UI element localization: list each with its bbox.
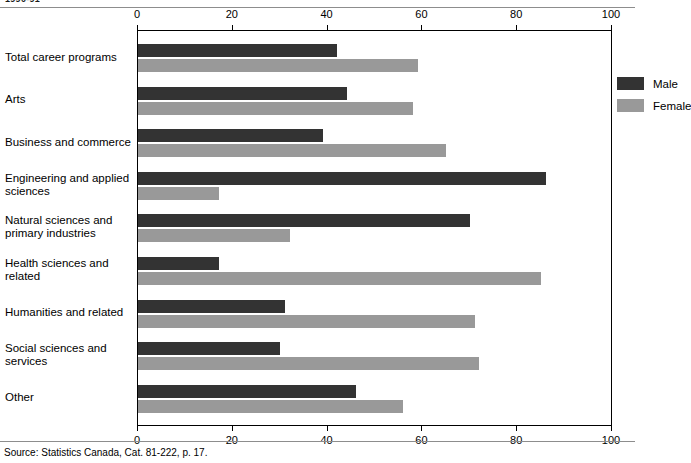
category-label-line: related: [5, 270, 133, 283]
category-label: Social sciences andservices: [5, 342, 133, 368]
tick-mark-bottom: [137, 426, 138, 431]
category-label: Arts: [5, 93, 133, 106]
bar-male: [138, 385, 356, 398]
legend-swatch-female-icon: [617, 99, 644, 112]
bar-male: [138, 129, 323, 142]
category-label-line: Business and commerce: [5, 136, 133, 149]
tick-label-top: 80: [496, 8, 536, 20]
bar-male: [138, 44, 337, 57]
legend-label-male: Male: [653, 78, 678, 90]
plot-area: Male Female: [137, 30, 612, 426]
tick-mark-bottom: [232, 426, 233, 431]
category-label-line: Engineering and applied: [5, 172, 133, 185]
category-label-line: Health sciences and: [5, 257, 133, 270]
tick-label-bottom: 80: [496, 434, 536, 446]
bar-male: [138, 214, 470, 227]
bar-female: [138, 187, 219, 200]
legend-item-male: Male: [617, 77, 691, 90]
tick-label-top: 60: [401, 8, 441, 20]
bar-female: [138, 357, 479, 370]
bar-male: [138, 300, 285, 313]
category-label-line: services: [5, 355, 133, 368]
legend-label-female: Female: [653, 100, 691, 112]
tick-label-top: 100: [591, 8, 631, 20]
source-note: Source: Statistics Canada, Cat. 81-222, …: [4, 447, 207, 458]
category-label: Humanities and related: [5, 306, 133, 319]
tick-mark-bottom: [421, 426, 422, 431]
category-label-line: Total career programs: [5, 51, 133, 64]
legend-swatch-male-icon: [617, 77, 644, 90]
bar-female: [138, 272, 541, 285]
bar-male: [138, 342, 280, 355]
tick-mark-top: [232, 25, 233, 30]
tick-label-top: 20: [212, 8, 252, 20]
category-label: Health sciences andrelated: [5, 257, 133, 283]
bar-female: [138, 229, 290, 242]
tick-label-top: 40: [307, 8, 347, 20]
axis-right: [611, 30, 612, 426]
tick-mark-top: [327, 25, 328, 30]
category-label-line: Natural sciences and: [5, 214, 133, 227]
tick-label-bottom: 100: [591, 434, 631, 446]
tick-mark-top: [421, 25, 422, 30]
category-label: Total career programs: [5, 51, 133, 64]
category-label-line: Humanities and related: [5, 306, 133, 319]
legend-item-female: Female: [617, 99, 691, 112]
category-label-line: Other: [5, 391, 133, 404]
category-label-line: Social sciences and: [5, 342, 133, 355]
bar-female: [138, 400, 403, 413]
tick-label-bottom: 40: [307, 434, 347, 446]
category-label-line: Arts: [5, 93, 133, 106]
clipped-title: 1990-91: [5, 0, 40, 3]
category-label: Natural sciences andprimary industries: [5, 214, 133, 240]
tick-mark-bottom: [327, 426, 328, 431]
tick-mark-bottom: [611, 426, 612, 431]
bar-male: [138, 257, 219, 270]
source-divider: [0, 441, 635, 442]
tick-mark-top: [611, 25, 612, 30]
bar-male: [138, 172, 546, 185]
bar-female: [138, 59, 418, 72]
bar-female: [138, 102, 413, 115]
category-label: Engineering and appliedsciences: [5, 172, 133, 198]
bar-male: [138, 87, 347, 100]
legend: Male Female: [617, 77, 691, 121]
category-label: Business and commerce: [5, 136, 133, 149]
tick-mark-top: [516, 25, 517, 30]
tick-label-bottom: 0: [117, 434, 157, 446]
axis-top: [137, 30, 612, 31]
bar-female: [138, 144, 446, 157]
category-label-line: sciences: [5, 185, 133, 198]
tick-mark-bottom: [516, 426, 517, 431]
category-label: Other: [5, 391, 133, 404]
tick-label-top: 0: [117, 8, 157, 20]
category-label-line: primary industries: [5, 227, 133, 240]
tick-label-bottom: 60: [401, 434, 441, 446]
tick-mark-top: [137, 25, 138, 30]
tick-label-bottom: 20: [212, 434, 252, 446]
axis-bottom: [137, 425, 612, 426]
bar-female: [138, 315, 475, 328]
